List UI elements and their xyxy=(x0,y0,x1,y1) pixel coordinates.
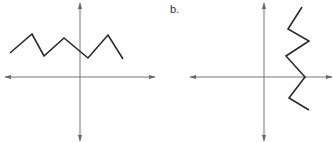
graph-a xyxy=(5,3,155,141)
graph-b-label: b. xyxy=(170,3,179,15)
graph-b xyxy=(190,3,332,141)
zigzag-curve xyxy=(10,34,123,59)
figure-canvas xyxy=(0,0,333,143)
zigzag-curve xyxy=(286,7,309,110)
